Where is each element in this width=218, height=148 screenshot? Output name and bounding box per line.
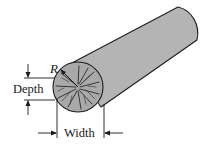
log-diagram: R Depth Width <box>0 0 218 148</box>
radius-label: R <box>49 61 58 76</box>
width-label: Width <box>64 126 95 140</box>
depth-label: Depth <box>13 82 44 96</box>
end-face <box>53 62 103 112</box>
